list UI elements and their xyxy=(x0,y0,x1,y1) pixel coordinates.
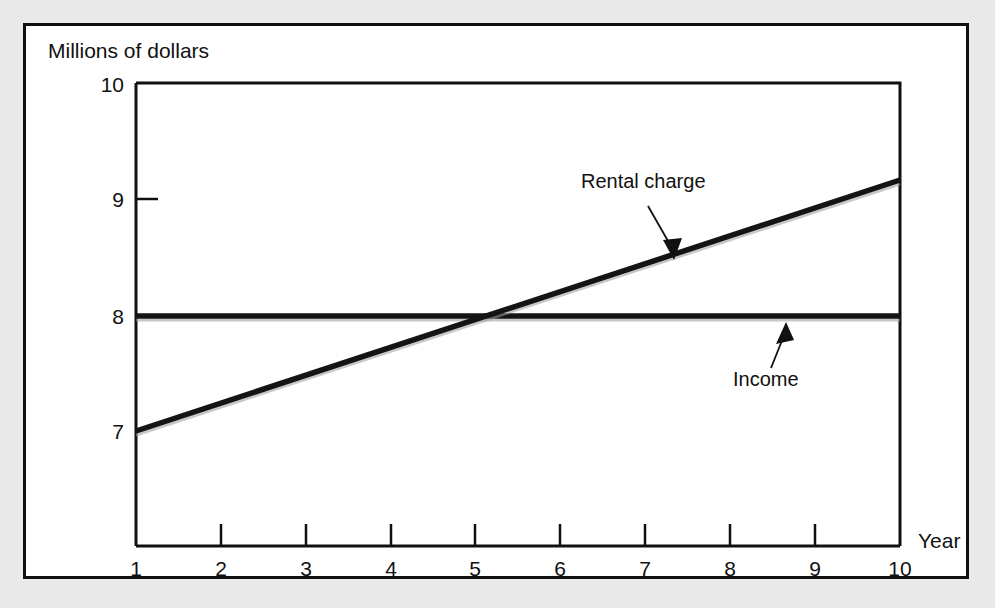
y-tick-label-7: 7 xyxy=(112,420,124,443)
x-tick-label-4: 4 xyxy=(385,557,397,580)
series-line-rental-charge xyxy=(136,180,900,431)
annotation-arrow-head-income xyxy=(776,322,794,344)
x-tick-label-3: 3 xyxy=(300,557,312,580)
x-tick-label-10: 10 xyxy=(888,557,911,580)
x-tick-label-9: 9 xyxy=(809,557,821,580)
y-axis-title: Millions of dollars xyxy=(48,39,209,62)
x-tick-label-2: 2 xyxy=(215,557,227,580)
y-tick-label-9: 9 xyxy=(112,188,124,211)
annotation-label-rental-charge: Rental charge xyxy=(581,170,706,192)
x-tick-label-8: 8 xyxy=(724,557,736,580)
chart-figure: Millions of dollars 10 9 8 7 1 2 3 4 5 6… xyxy=(23,23,969,579)
annotation-label-income: Income xyxy=(733,368,799,390)
x-axis-title: Year xyxy=(918,529,960,552)
line-chart-canvas: Millions of dollars 10 9 8 7 1 2 3 4 5 6… xyxy=(26,26,972,582)
x-tick-label-6: 6 xyxy=(554,557,566,580)
rental-charge-line-shadow xyxy=(136,184,900,435)
y-tick-label-8: 8 xyxy=(112,305,124,328)
x-tick-label-5: 5 xyxy=(469,557,481,580)
x-tick-label-1: 1 xyxy=(130,557,142,580)
y-tick-label-10: 10 xyxy=(101,73,124,96)
x-tick-label-7: 7 xyxy=(639,557,651,580)
